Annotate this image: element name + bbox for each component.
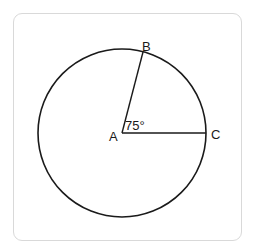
point-label-b: B bbox=[142, 39, 151, 54]
point-label-a: A bbox=[109, 129, 118, 144]
point-label-c: C bbox=[211, 127, 220, 142]
angle-label: 75° bbox=[125, 118, 145, 133]
circle-diagram: A B C 75° bbox=[0, 0, 253, 252]
